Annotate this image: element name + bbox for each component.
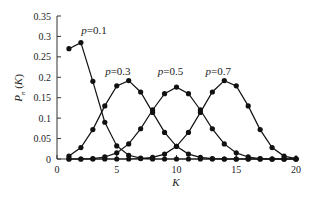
data-point	[174, 144, 179, 149]
data-point	[102, 120, 107, 125]
data-point	[78, 40, 83, 45]
data-point	[186, 151, 191, 156]
data-point	[270, 156, 275, 161]
x-tick-label: 15	[231, 164, 241, 175]
data-point	[126, 78, 131, 83]
x-tick-label: 20	[291, 164, 301, 175]
data-point	[246, 154, 251, 159]
data-point	[234, 156, 239, 161]
data-point	[138, 126, 143, 131]
y-tick-label: 0.15	[34, 92, 52, 103]
series-label: p=0.5	[157, 65, 184, 77]
data-point	[186, 91, 191, 96]
x-tick-label: 10	[172, 164, 182, 175]
data-point	[222, 78, 227, 83]
data-point	[174, 84, 179, 89]
labels-group: p=0.1p=0.3p=0.5p=0.7	[80, 24, 231, 77]
x-tick-label: 5	[114, 164, 119, 175]
data-point	[90, 127, 95, 132]
data-point	[222, 141, 227, 146]
data-point	[198, 155, 203, 160]
data-point	[114, 156, 119, 161]
data-point	[293, 156, 298, 161]
svg-text:Pn (K): Pn (K)	[12, 74, 27, 103]
data-point	[138, 156, 143, 161]
data-point	[246, 103, 251, 108]
y-tick-label: 0.35	[34, 11, 52, 22]
data-point	[270, 145, 275, 150]
data-point	[174, 156, 179, 161]
data-point	[138, 89, 143, 94]
data-point	[162, 130, 167, 135]
binomial-distribution-chart: 00.050.10.150.20.250.30.3505101520 p=0.1…	[0, 0, 314, 204]
data-point	[162, 156, 167, 161]
data-point	[210, 89, 215, 94]
data-point	[198, 110, 203, 115]
series-line	[69, 43, 296, 159]
data-point	[258, 156, 263, 161]
x-axis-title: K	[171, 176, 180, 188]
y-tick-label: 0.2	[39, 72, 52, 83]
data-point	[210, 156, 215, 161]
y-tick-label: 0	[46, 154, 51, 165]
series-p01	[66, 40, 298, 162]
series-label: p=0.1	[80, 24, 106, 36]
y-tick-label: 0.05	[34, 133, 52, 144]
data-point	[102, 103, 107, 108]
data-point	[150, 107, 155, 112]
data-point	[114, 150, 119, 155]
data-point	[126, 141, 131, 146]
data-point	[102, 156, 107, 161]
series-label: p=0.3	[104, 65, 131, 77]
data-point	[258, 127, 263, 132]
data-point	[90, 79, 95, 84]
data-point	[162, 151, 167, 156]
series-label: p=0.7	[205, 65, 232, 77]
data-point	[78, 145, 83, 150]
data-point	[78, 156, 83, 161]
data-point	[186, 130, 191, 135]
y-tick-label: 0.25	[34, 51, 52, 62]
data-point	[114, 83, 119, 88]
series-line	[69, 81, 296, 159]
data-point	[234, 83, 239, 88]
data-point	[150, 155, 155, 160]
data-point	[186, 156, 191, 161]
data-point	[281, 154, 286, 159]
data-point	[234, 150, 239, 155]
y-tick-label: 0.1	[39, 113, 52, 124]
data-point	[66, 156, 71, 161]
series-group	[66, 40, 298, 162]
data-point	[66, 46, 71, 51]
data-point	[222, 156, 227, 161]
data-point	[90, 156, 95, 161]
y-tick-label: 0.3	[39, 31, 52, 42]
data-point	[114, 143, 119, 148]
series-line	[69, 81, 296, 159]
x-tick-label: 0	[55, 164, 60, 175]
data-point	[126, 156, 131, 161]
data-point	[162, 91, 167, 96]
data-point	[210, 126, 215, 131]
y-axis-title: Pn (K)	[12, 74, 27, 103]
